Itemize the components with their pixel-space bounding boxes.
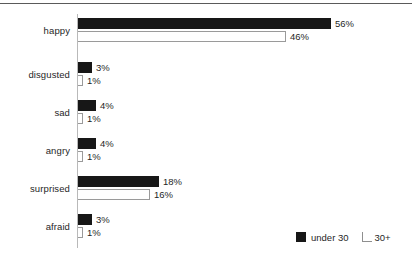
bar-fill-30plus-sad	[78, 113, 83, 124]
plot-area: happy 56% 46% disgusted 3% 1% sa	[0, 14, 412, 254]
bar-value-30plus-happy: 46%	[290, 31, 309, 42]
category-label-disgusted: disgusted	[0, 69, 70, 80]
category-label-surprised: surprised	[0, 183, 70, 194]
legend-item-under-30[interactable]: under 30	[296, 232, 349, 243]
bar-value-30plus-surprised: 16%	[154, 189, 173, 200]
bar-fill-30plus-happy	[78, 31, 286, 42]
bar-fill-under30-happy	[78, 18, 331, 29]
category-label-sad: sad	[0, 107, 70, 118]
bar-fill-30plus-surprised	[78, 189, 150, 200]
category-group-angry: angry 4% 1%	[0, 138, 412, 164]
bar-fill-30plus-angry	[78, 151, 83, 162]
category-axis-line	[77, 14, 78, 248]
emotion-age-bar-chart: happy 56% 46% disgusted 3% 1% sa	[0, 0, 412, 268]
bar-value-30plus-afraid: 1%	[87, 227, 101, 238]
legend-item-30-plus[interactable]: 30+	[362, 232, 391, 243]
bar-value-30plus-sad: 1%	[87, 113, 101, 124]
bar-value-30plus-disgusted: 1%	[87, 75, 101, 86]
category-label-happy: happy	[0, 25, 70, 36]
bar-fill-30plus-disgusted	[78, 75, 83, 86]
bar-value-under30-afraid: 3%	[96, 214, 110, 225]
top-divider-rule	[0, 3, 412, 4]
solid-square-swatch-icon	[296, 232, 306, 242]
category-group-happy: happy 56% 46%	[0, 18, 412, 44]
category-group-surprised: surprised 18% 16%	[0, 176, 412, 202]
chart-legend: under 30 30+	[296, 230, 391, 244]
category-label-angry: angry	[0, 145, 70, 156]
bar-fill-under30-afraid	[78, 214, 92, 225]
bar-value-under30-disgusted: 3%	[96, 62, 110, 73]
bar-value-under30-happy: 56%	[335, 18, 354, 29]
bar-value-under30-sad: 4%	[100, 100, 114, 111]
bar-value-under30-surprised: 18%	[163, 176, 182, 187]
bar-fill-under30-sad	[78, 100, 96, 111]
bar-fill-under30-disgusted	[78, 62, 92, 73]
bar-fill-under30-angry	[78, 138, 96, 149]
bar-value-under30-angry: 4%	[100, 138, 114, 149]
legend-label-30-plus: 30+	[375, 232, 391, 243]
category-group-disgusted: disgusted 3% 1%	[0, 62, 412, 88]
category-label-afraid: afraid	[0, 221, 70, 232]
outline-corner-swatch-icon	[362, 232, 372, 242]
category-group-sad: sad 4% 1%	[0, 100, 412, 126]
bar-fill-under30-surprised	[78, 176, 159, 187]
legend-label-under-30: under 30	[311, 232, 349, 243]
bar-value-30plus-angry: 1%	[87, 151, 101, 162]
bar-fill-30plus-afraid	[78, 227, 83, 238]
